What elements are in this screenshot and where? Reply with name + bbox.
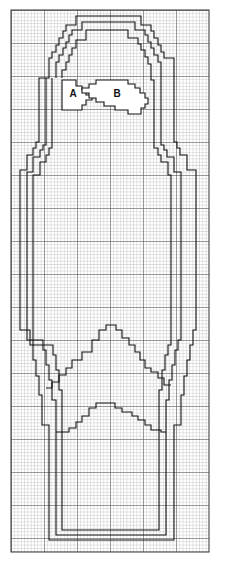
knitting-chart: A B — [0, 0, 230, 563]
label-b: B — [113, 88, 120, 99]
label-a: A — [69, 88, 76, 99]
